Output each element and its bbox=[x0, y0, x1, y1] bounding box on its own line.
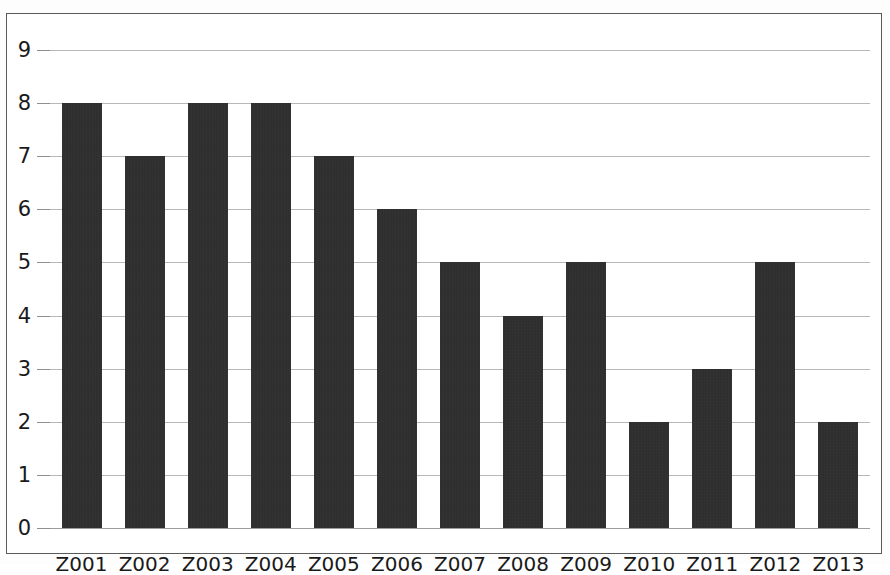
bar[interactable] bbox=[251, 103, 291, 528]
bar[interactable] bbox=[692, 369, 732, 528]
bar[interactable] bbox=[566, 262, 606, 528]
x-axis-tick-label: Z009 bbox=[560, 554, 612, 574]
y-axis-tick-label: 4 bbox=[18, 305, 31, 326]
gridline: 8 bbox=[50, 103, 870, 104]
y-axis-tick-mark bbox=[37, 103, 50, 104]
bar[interactable] bbox=[440, 262, 480, 528]
y-axis-tick-mark bbox=[37, 156, 50, 157]
gridline: 9 bbox=[50, 50, 870, 51]
y-axis-tick-mark bbox=[37, 262, 50, 263]
y-axis-tick-mark bbox=[37, 475, 50, 476]
y-axis-tick-label: 7 bbox=[18, 146, 31, 167]
y-axis-tick-label: 3 bbox=[18, 358, 31, 379]
x-axis-tick-label: Z002 bbox=[119, 554, 171, 574]
bar[interactable] bbox=[125, 156, 165, 528]
y-axis-tick-label: 0 bbox=[18, 518, 31, 539]
gridline: 6 bbox=[50, 209, 870, 210]
bar[interactable] bbox=[755, 262, 795, 528]
x-axis-tick-label: Z005 bbox=[308, 554, 360, 574]
y-axis-tick-label: 6 bbox=[18, 199, 31, 220]
bar[interactable] bbox=[62, 103, 102, 528]
x-axis-tick-label: Z003 bbox=[182, 554, 234, 574]
bar[interactable] bbox=[818, 422, 858, 528]
bar[interactable] bbox=[503, 316, 543, 528]
y-axis-tick-mark bbox=[37, 209, 50, 210]
x-axis-tick-label: Z007 bbox=[434, 554, 486, 574]
y-axis-tick-mark bbox=[37, 316, 50, 317]
gridline: 0 bbox=[50, 528, 870, 529]
x-axis-tick-label: Z013 bbox=[813, 554, 865, 574]
bar[interactable] bbox=[629, 422, 669, 528]
x-axis-tick-label: Z012 bbox=[749, 554, 801, 574]
y-axis-tick-mark bbox=[37, 50, 50, 51]
y-axis-tick-mark bbox=[37, 422, 50, 423]
gridline: 7 bbox=[50, 156, 870, 157]
x-axis-tick-label: Z008 bbox=[497, 554, 549, 574]
bar[interactable] bbox=[314, 156, 354, 528]
x-axis-tick-label: Z010 bbox=[623, 554, 675, 574]
x-axis-tick-label: Z004 bbox=[245, 554, 297, 574]
y-axis-tick-label: 5 bbox=[18, 252, 31, 273]
x-axis-tick-label: Z006 bbox=[371, 554, 423, 574]
plot-area: 0123456789Z001Z002Z003Z004Z005Z006Z007Z0… bbox=[50, 50, 870, 528]
x-axis-tick-label: Z001 bbox=[56, 554, 108, 574]
y-axis-tick-mark bbox=[37, 528, 50, 529]
x-axis-tick-label: Z011 bbox=[686, 554, 738, 574]
chart-border: 0123456789Z001Z002Z003Z004Z005Z006Z007Z0… bbox=[6, 13, 882, 554]
y-axis-tick-label: 1 bbox=[18, 464, 31, 485]
bar[interactable] bbox=[188, 103, 228, 528]
y-axis-tick-label: 9 bbox=[18, 40, 31, 61]
y-axis-tick-label: 8 bbox=[18, 93, 31, 114]
bar[interactable] bbox=[377, 209, 417, 528]
y-axis-tick-label: 2 bbox=[18, 411, 31, 432]
y-axis-tick-mark bbox=[37, 369, 50, 370]
